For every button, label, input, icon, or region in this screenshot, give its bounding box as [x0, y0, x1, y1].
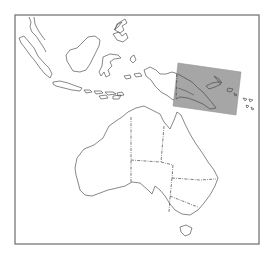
sulawesi: [99, 54, 121, 77]
maluku: [124, 55, 142, 79]
borneo: [66, 36, 100, 72]
philippines-south: [113, 19, 128, 42]
lesser-sunda-islands: [84, 90, 124, 99]
sumatra: [19, 36, 52, 78]
tasmania: [180, 225, 192, 236]
australia-mainland: [75, 106, 218, 215]
java: [53, 81, 82, 91]
map-figure: [0, 0, 275, 256]
map-land: [19, 17, 254, 236]
